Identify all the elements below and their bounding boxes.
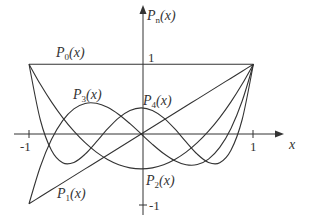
label-p4-arg: (x)	[156, 93, 172, 108]
label-p3-main: P	[73, 87, 82, 102]
label-p3-arg: (x)	[86, 87, 102, 102]
label-p1-arg: (x)	[70, 186, 86, 201]
label-p2-arg: (x)	[159, 173, 175, 188]
legendre-chart: Pn(x) P0(x) P3(x) P4(x) P1(x) P2(x) 1 -1…	[0, 0, 309, 223]
y-axis-label-main: P	[147, 8, 156, 23]
y-axis-label-arg: (x)	[160, 8, 176, 23]
label-p1: P1(x)	[57, 187, 86, 201]
y-axis-arrow-icon	[140, 5, 147, 14]
x-axis-arrow-icon	[275, 131, 284, 138]
x-tick-label-1: 1	[250, 140, 257, 153]
label-p1-sub: 1	[66, 193, 71, 203]
y-axis-label: Pn(x)	[147, 9, 176, 23]
label-p2: P2(x)	[146, 174, 175, 188]
label-p2-main: P	[146, 173, 155, 188]
x-axis-label: x	[289, 138, 295, 152]
label-p0-main: P	[56, 45, 65, 60]
x-tick-label-neg1: -1	[20, 140, 31, 153]
label-p4: P4(x)	[143, 94, 172, 108]
curve-p2x	[29, 64, 253, 169]
label-p3: P3(x)	[73, 88, 102, 102]
label-p4-sub: 4	[152, 100, 157, 110]
y-tick-label-neg1: -1	[149, 199, 160, 212]
label-p4-main: P	[143, 93, 152, 108]
label-p2-sub: 2	[155, 180, 160, 190]
label-p0: P0(x)	[56, 46, 85, 60]
y-axis-label-sub: n	[156, 15, 161, 25]
label-p3-sub: 3	[82, 94, 87, 104]
label-p1-main: P	[57, 186, 66, 201]
y-tick-label-1: 1	[148, 51, 155, 64]
label-p0-sub: 0	[65, 52, 70, 62]
curve-p4x	[29, 64, 253, 164]
label-p0-arg: (x)	[69, 45, 85, 60]
